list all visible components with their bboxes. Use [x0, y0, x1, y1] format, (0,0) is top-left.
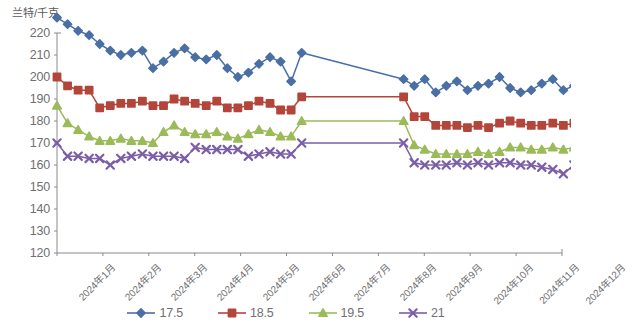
- chart-legend: 17.518.519.521: [0, 306, 571, 320]
- legend-item-21[interactable]: 21: [398, 306, 445, 320]
- legend-marker-triangle-icon: [308, 306, 338, 320]
- legend-item-18.5[interactable]: 18.5: [217, 306, 274, 320]
- legend-marker-square-icon: [217, 306, 247, 320]
- series-18.5: [54, 74, 572, 132]
- legend-label: 17.5: [159, 306, 183, 320]
- series-21: [53, 139, 571, 177]
- legend-marker-x-icon: [398, 306, 428, 320]
- x-axis-tick: 2024年12月: [581, 260, 628, 307]
- legend-label: 19.5: [341, 306, 365, 320]
- legend-label: 21: [431, 306, 445, 320]
- legend-marker-diamond-icon: [126, 306, 156, 320]
- legend-item-17.5[interactable]: 17.5: [126, 306, 183, 320]
- legend-label: 18.5: [250, 306, 274, 320]
- series-19.5: [53, 101, 571, 157]
- legend-item-19.5[interactable]: 19.5: [308, 306, 365, 320]
- series-17.5: [53, 14, 571, 97]
